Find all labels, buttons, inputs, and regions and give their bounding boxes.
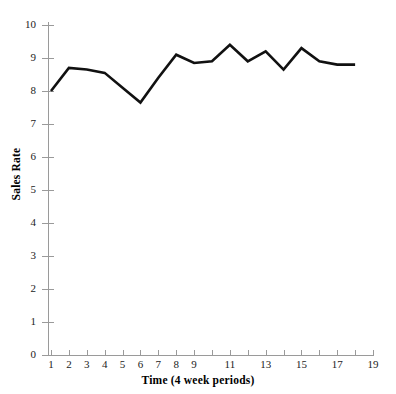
y-axis-title: Sales Rate (10, 134, 22, 214)
x-axis-title: Time (4 week periods) (0, 374, 396, 386)
sales-rate-line (51, 45, 355, 103)
plot-area: 012345678910 1234567891113151719 Sales R… (0, 0, 396, 394)
sales-rate-line-chart: 012345678910 1234567891113151719 Sales R… (0, 0, 396, 394)
series-layer (0, 0, 396, 394)
